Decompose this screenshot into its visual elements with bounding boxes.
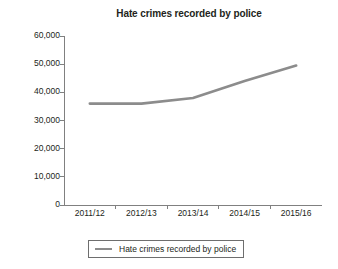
legend-line-swatch — [95, 248, 112, 251]
legend-item-label: Hate crimes recorded by police — [119, 244, 236, 254]
chart-legend: Hate crimes recorded by police — [88, 240, 244, 258]
x-axis-tick-label: 2013/14 — [178, 208, 209, 218]
x-axis-tick-label: 2015/16 — [281, 208, 312, 218]
x-axis-tick-label: 2012/13 — [126, 208, 157, 218]
x-axis-tick-label: 2014/15 — [229, 208, 260, 218]
x-axis-tick-label: 2011/12 — [75, 208, 105, 218]
legend-item-hate-crimes: Hate crimes recorded by police — [95, 244, 236, 254]
hate-crimes-line-chart: Hate crimes recorded by police 010,00020… — [0, 0, 338, 269]
plot-area: 010,00020,00030,00040,00050,00060,000 20… — [0, 0, 338, 225]
x-axis-labels: 2011/122012/132013/142014/152015/16 — [0, 0, 338, 225]
